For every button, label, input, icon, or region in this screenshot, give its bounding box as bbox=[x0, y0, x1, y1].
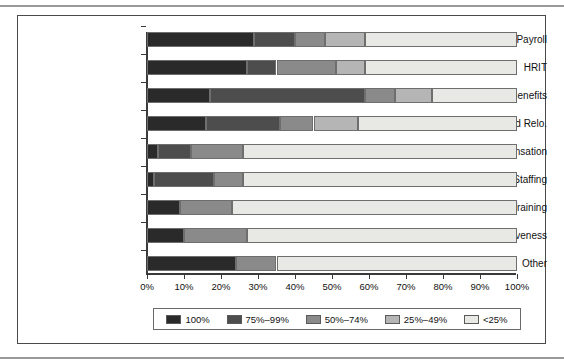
x-axis-tick bbox=[443, 274, 444, 279]
stacked-bar bbox=[147, 116, 517, 131]
bar-segment bbox=[254, 32, 295, 47]
legend-label: 50%–74% bbox=[325, 314, 368, 325]
y-axis-tick bbox=[141, 54, 146, 55]
legend-item: <25% bbox=[464, 314, 508, 325]
x-axis-tick bbox=[332, 274, 333, 279]
bar-segment bbox=[365, 88, 395, 103]
legend-item: 50%–74% bbox=[306, 314, 368, 325]
bar-segment bbox=[147, 200, 180, 215]
x-axis-tick-label: 90% bbox=[460, 281, 500, 292]
y-axis-tick bbox=[141, 250, 146, 251]
bar-segment bbox=[147, 256, 236, 271]
x-axis-tick-label: 60% bbox=[349, 281, 389, 292]
bar-segment bbox=[295, 32, 325, 47]
x-axis-tick-label: 80% bbox=[423, 281, 463, 292]
bar-segment bbox=[147, 228, 184, 243]
x-axis-tick-label: 40% bbox=[275, 281, 315, 292]
legend-item: 100% bbox=[166, 314, 209, 325]
bar-segment bbox=[314, 116, 358, 131]
x-axis-tick bbox=[406, 274, 407, 279]
legend-swatch bbox=[464, 315, 479, 324]
x-axis-tick bbox=[480, 274, 481, 279]
x-axis-tick-label: 100% bbox=[497, 281, 537, 292]
bar-segment bbox=[325, 32, 366, 47]
stacked-bar bbox=[147, 60, 517, 75]
stacked-bar bbox=[147, 172, 517, 187]
legend-item: 25%–49% bbox=[385, 314, 447, 325]
x-axis-tick bbox=[258, 274, 259, 279]
bar-segment bbox=[395, 88, 432, 103]
x-axis-tick-label: 50% bbox=[312, 281, 352, 292]
figure-frame: PayrollHRITBenefitsExpat and Relo.Compen… bbox=[17, 15, 546, 344]
legend-swatch bbox=[166, 315, 181, 324]
bar-segment bbox=[147, 88, 210, 103]
x-axis-tick bbox=[295, 274, 296, 279]
chart-legend: 100%75%–99%50%–74%25%–49%<25% bbox=[153, 308, 521, 330]
bar-segment bbox=[206, 116, 280, 131]
legend-label: 25%–49% bbox=[404, 314, 447, 325]
bar-segment bbox=[158, 144, 191, 159]
bar-segment bbox=[336, 60, 366, 75]
x-axis-tick-label: 30% bbox=[238, 281, 278, 292]
legend-swatch bbox=[385, 315, 400, 324]
bar-segment bbox=[236, 256, 277, 271]
bar-segment bbox=[432, 88, 517, 103]
legend-swatch bbox=[227, 315, 242, 324]
x-axis-tick-label: 0% bbox=[127, 281, 167, 292]
y-axis-tick bbox=[141, 166, 146, 167]
bar-segment bbox=[147, 60, 247, 75]
y-axis-tick bbox=[141, 222, 146, 223]
stacked-bar bbox=[147, 88, 517, 103]
bar-segment bbox=[191, 144, 243, 159]
bar-segment bbox=[232, 200, 517, 215]
bar-segment bbox=[280, 116, 313, 131]
legend-label: 75%–99% bbox=[246, 314, 289, 325]
y-axis-tick bbox=[141, 26, 146, 27]
bar-segment bbox=[247, 60, 277, 75]
bar-segment bbox=[210, 88, 365, 103]
bar-segment bbox=[358, 116, 517, 131]
x-axis-tick bbox=[517, 274, 518, 279]
bar-segment bbox=[243, 144, 517, 159]
bar-segment bbox=[154, 172, 213, 187]
x-axis-line bbox=[146, 273, 516, 275]
stacked-bar bbox=[147, 200, 517, 215]
bar-segment bbox=[277, 256, 518, 271]
bar-segment bbox=[365, 60, 517, 75]
stacked-bar bbox=[147, 256, 517, 271]
bar-segment bbox=[147, 32, 254, 47]
chart-plot-area: PayrollHRITBenefitsExpat and Relo.Compen… bbox=[18, 16, 547, 345]
bar-segment bbox=[147, 172, 154, 187]
x-axis-tick bbox=[369, 274, 370, 279]
x-axis-tick bbox=[184, 274, 185, 279]
legend-swatch bbox=[306, 315, 321, 324]
legend-label: 100% bbox=[185, 314, 209, 325]
bar-segment bbox=[180, 200, 232, 215]
bar-segment bbox=[277, 60, 336, 75]
bar-segment bbox=[365, 32, 517, 47]
bar-segment bbox=[243, 172, 517, 187]
x-axis-tick bbox=[147, 274, 148, 279]
x-axis-tick bbox=[221, 274, 222, 279]
stacked-bar bbox=[147, 32, 517, 47]
stacked-bar bbox=[147, 228, 517, 243]
top-divider-rule bbox=[0, 5, 564, 7]
bar-segment bbox=[147, 116, 206, 131]
bar-segment bbox=[214, 172, 244, 187]
y-axis-tick bbox=[141, 138, 146, 139]
x-axis-tick-label: 70% bbox=[386, 281, 426, 292]
bar-segment bbox=[147, 144, 158, 159]
stacked-bar bbox=[147, 144, 517, 159]
y-axis-tick bbox=[141, 82, 146, 83]
bar-segment bbox=[184, 228, 247, 243]
x-axis-tick-label: 20% bbox=[201, 281, 241, 292]
legend-item: 75%–99% bbox=[227, 314, 289, 325]
bottom-divider-rule bbox=[0, 357, 564, 359]
bar-segment bbox=[247, 228, 517, 243]
x-axis-tick-label: 10% bbox=[164, 281, 204, 292]
y-axis-tick bbox=[141, 194, 146, 195]
y-axis-tick bbox=[141, 110, 146, 111]
legend-label: <25% bbox=[483, 314, 508, 325]
